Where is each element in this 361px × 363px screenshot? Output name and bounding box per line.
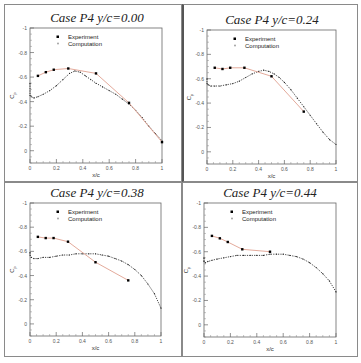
computation-point xyxy=(122,99,123,100)
computation-point xyxy=(62,254,63,255)
chart-title: Case P4 y/c=0.38 xyxy=(50,185,144,200)
experiment-marker xyxy=(227,241,229,243)
plot-frame xyxy=(207,30,336,164)
computation-point xyxy=(236,255,237,256)
x-tick-label: 0.8 xyxy=(307,166,314,172)
legend-computation-label: Computation xyxy=(242,216,276,222)
experiment-marker xyxy=(214,67,216,69)
computation-curve xyxy=(30,253,161,309)
computation-point xyxy=(33,258,34,259)
x-tick-label: 1 xyxy=(160,338,163,344)
experiment-marker xyxy=(67,67,69,69)
y-tick-label: -0.8 xyxy=(195,51,204,57)
computation-point xyxy=(290,89,291,90)
computation-point xyxy=(243,255,244,256)
computation-point xyxy=(230,256,231,257)
computation-point xyxy=(95,253,96,254)
plot-frame xyxy=(204,203,336,337)
computation-point xyxy=(239,81,240,82)
computation-point xyxy=(284,82,285,83)
computation-point xyxy=(108,256,109,257)
experiment-marker xyxy=(269,251,271,253)
computation-point xyxy=(256,255,257,256)
computation-point xyxy=(316,267,317,268)
legend-experiment-label: Experiment xyxy=(245,36,276,42)
y-tick-label: -0.4 xyxy=(192,273,201,279)
computation-point xyxy=(95,83,96,84)
chart-2: Case P4 y/c=0.38-1-0.8-0.6-0.4-0.2000.20… xyxy=(9,185,163,351)
chart-1: Case P4 y/c=0.24-1-0.8-0.6-0.4-0.2000.20… xyxy=(186,12,338,179)
y-tick-label: -1 xyxy=(200,27,205,33)
computation-point xyxy=(29,95,30,96)
computation-point xyxy=(43,257,44,258)
computation-point xyxy=(217,258,218,259)
computation-point xyxy=(245,77,246,78)
computation-point xyxy=(56,256,57,257)
computation-point xyxy=(121,260,122,261)
computation-point xyxy=(303,106,304,107)
x-tick-label: 0 xyxy=(29,165,32,171)
experiment-marker xyxy=(241,248,243,250)
computation-point xyxy=(88,253,89,254)
y-tick-label: 0 xyxy=(201,149,204,155)
computation-point xyxy=(219,85,220,86)
legend-experiment-marker xyxy=(57,211,60,214)
y-tick-label: -0.2 xyxy=(18,297,27,303)
x-axis-label: x/c xyxy=(266,346,274,352)
computation-point xyxy=(226,84,227,85)
legend-computation-marker xyxy=(234,45,236,47)
computation-point xyxy=(37,96,38,97)
y-tick-label: -1 xyxy=(23,200,28,206)
computation-point xyxy=(316,123,317,124)
x-tick-label: 0.4 xyxy=(79,338,86,344)
computation-point xyxy=(276,254,277,255)
y-tick-label: 0 xyxy=(24,148,27,154)
computation-point xyxy=(115,258,116,259)
computation-point xyxy=(141,275,142,276)
legend-experiment-label: Experiment xyxy=(242,209,273,215)
legend-computation-marker xyxy=(57,43,59,45)
experiment-marker xyxy=(37,75,39,77)
computation-point xyxy=(289,255,290,256)
y-tick-label: -0.8 xyxy=(192,224,201,230)
computation-point xyxy=(90,79,91,80)
experiment-marker xyxy=(243,67,245,69)
legend-computation-label: Computation xyxy=(68,41,102,47)
legend-computation-marker xyxy=(57,218,59,220)
computation-point xyxy=(206,83,207,84)
computation-point xyxy=(160,308,161,309)
computation-curve xyxy=(30,71,162,141)
computation-point xyxy=(335,291,336,292)
computation-point xyxy=(207,261,208,262)
x-tick-label: 0.2 xyxy=(227,339,234,345)
x-tick-label: 0.6 xyxy=(105,338,112,344)
experiment-marker xyxy=(37,236,39,238)
x-tick-label: 0.2 xyxy=(229,166,236,172)
computation-curve xyxy=(204,254,336,292)
legend-experiment-marker xyxy=(231,211,234,214)
y-tick-label: -1 xyxy=(197,200,202,206)
x-axis-label: x/c xyxy=(268,173,276,179)
y-tick-label: -0.4 xyxy=(195,100,204,106)
y-axis-label: Cp xyxy=(183,266,191,273)
computation-point xyxy=(329,280,330,281)
chart-title: Case P4 y/c=0.44 xyxy=(223,185,317,200)
computation-point xyxy=(250,255,251,256)
y-tick-label: 0 xyxy=(24,321,27,327)
x-tick-label: 0.4 xyxy=(253,339,260,345)
computation-point xyxy=(309,262,310,263)
experiment-line xyxy=(38,69,162,143)
computation-point xyxy=(335,144,336,145)
computation-point xyxy=(205,262,206,263)
computation-curve xyxy=(207,70,336,144)
legend-experiment-marker xyxy=(234,38,237,41)
computation-point xyxy=(31,96,32,97)
y-tick-label: 0 xyxy=(198,322,201,328)
computation-point xyxy=(296,256,297,257)
computation-point xyxy=(29,254,30,255)
computation-point xyxy=(297,98,298,99)
computation-point xyxy=(322,273,323,274)
computation-point xyxy=(283,254,284,255)
y-tick-label: -0.6 xyxy=(18,248,27,254)
y-tick-label: -0.2 xyxy=(192,297,201,303)
